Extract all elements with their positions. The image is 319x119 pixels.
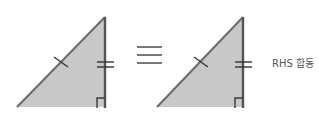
left-triangle xyxy=(17,17,114,108)
congruence-diagram: RHS 합동 xyxy=(0,0,319,119)
right-triangle xyxy=(157,17,252,108)
rhs-congruence-label: RHS 합동 xyxy=(272,58,314,69)
congruence-symbol xyxy=(137,47,162,63)
